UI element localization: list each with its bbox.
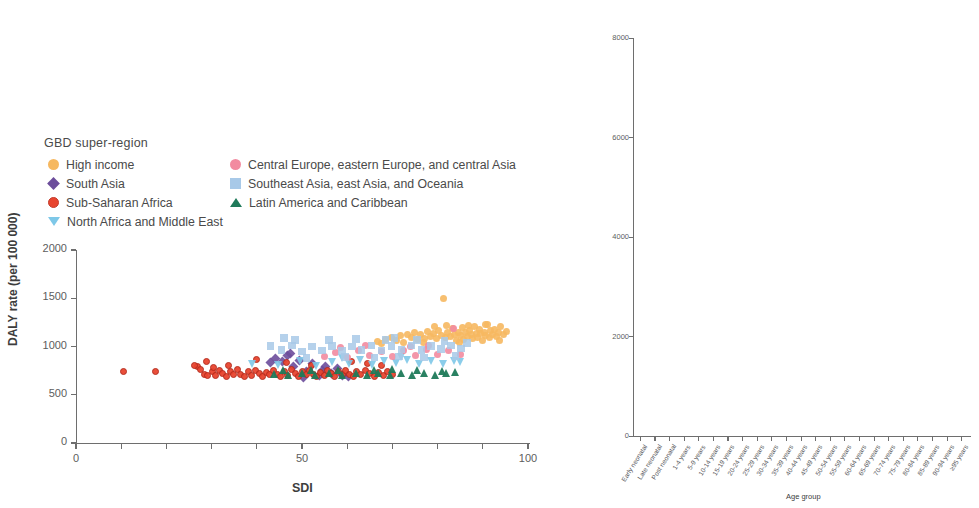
bar-x-tick <box>801 437 802 441</box>
legend-label: Central Europe, eastern Europe, and cent… <box>248 158 516 172</box>
scatter-point <box>325 336 333 344</box>
scatter-point <box>368 342 376 350</box>
bar-x-tick <box>888 437 889 441</box>
bar-y-tick-label: 2000 <box>589 332 629 341</box>
central-europe-marker-icon <box>230 159 241 170</box>
scatter-plot-area <box>76 250 528 443</box>
bar-x-tick <box>961 437 962 441</box>
scatter-x-tick <box>527 444 528 449</box>
legend-label: High income <box>66 158 134 172</box>
bar-x-tick <box>786 437 787 441</box>
legend-item-south-asia[interactable]: South Asia <box>48 174 223 193</box>
scatter-point <box>291 336 299 344</box>
legend-label: Latin America and Caribbean <box>249 196 408 210</box>
legend-item-southeast-asia[interactable]: Southeast Asia, east Asia, and Oceania <box>230 174 516 193</box>
scatter-point <box>267 342 275 350</box>
bar-x-tick <box>727 437 728 441</box>
scatter-point <box>356 356 364 364</box>
scatter-x-tick <box>166 444 167 449</box>
legend-column-left: High income South Asia Sub-Saharan Afric… <box>48 155 223 231</box>
scatter-point <box>438 367 446 375</box>
scatter-y-tick-label: 0 <box>0 435 67 447</box>
scatter-point <box>427 357 435 365</box>
scatter-point <box>270 370 278 378</box>
legend-label: South Asia <box>66 177 125 191</box>
legend-item-latin-america[interactable]: Latin America and Caribbean <box>230 193 516 212</box>
scatter-y-tick <box>71 346 76 347</box>
bar-y-tick <box>629 38 633 39</box>
bar-x-tick <box>903 437 904 441</box>
legend-item-north-africa-middle-east[interactable]: North Africa and Middle East <box>48 212 223 231</box>
scatter-x-tick <box>256 444 257 449</box>
legend-label: North Africa and Middle East <box>67 215 223 229</box>
scatter-point <box>380 357 388 365</box>
legend-item-high-income[interactable]: High income <box>48 155 223 174</box>
scatter-point <box>298 369 306 377</box>
scatter-point <box>370 366 378 374</box>
scatter-point <box>325 369 333 377</box>
south-asia-marker-icon <box>47 177 60 190</box>
bar-y-tick <box>629 237 633 238</box>
scatter-point <box>388 365 396 373</box>
scatter-y-tick <box>71 394 76 395</box>
north-africa-middle-east-marker-icon <box>48 217 60 226</box>
legend-item-central-europe[interactable]: Central Europe, eastern Europe, and cent… <box>230 155 516 174</box>
bar-x-tick <box>947 437 948 441</box>
scatter-point <box>318 347 326 355</box>
scatter-point <box>418 346 426 354</box>
scatter-point <box>440 295 447 302</box>
scatter-point <box>431 323 438 330</box>
bar-x-tick <box>771 437 772 441</box>
bar-x-tick <box>684 437 685 441</box>
southeast-asia-marker-icon <box>230 178 241 189</box>
scatter-x-tick <box>75 444 76 449</box>
scatter-point <box>191 362 198 369</box>
scatter-x-axis-line <box>76 443 530 444</box>
bar-y-tick-label: 6000 <box>589 133 629 142</box>
legend-label: Sub-Saharan Africa <box>66 196 173 210</box>
scatter-x-tick <box>482 444 483 449</box>
scatter-x-tick <box>211 444 212 449</box>
scatter-point <box>120 368 127 375</box>
scatter-point <box>397 369 405 377</box>
legend-title: GBD super-region <box>44 136 544 150</box>
scatter-x-tick <box>301 444 302 449</box>
scatter-point <box>352 335 360 343</box>
scatter-x-tick-label: 100 <box>508 452 548 464</box>
bar-x-axis-title: Age group <box>786 492 821 501</box>
scatter-point <box>352 369 360 377</box>
bar-x-tick <box>917 437 918 441</box>
scatter-x-tick-label: 50 <box>282 452 322 464</box>
scatter-point <box>203 358 210 365</box>
scatter-y-tick-label: 500 <box>0 387 67 399</box>
scatter-point <box>413 366 421 374</box>
scatter-x-axis-title: SDI <box>292 481 313 495</box>
scatter-point <box>382 336 390 344</box>
scatter-x-tick <box>121 444 122 449</box>
bar-x-tick <box>713 437 714 441</box>
scatter-y-tick <box>71 249 76 250</box>
scatter-point <box>152 368 159 375</box>
scatter-point <box>278 346 286 354</box>
scatter-point <box>503 328 510 335</box>
scatter-y-tick <box>71 298 76 299</box>
bar-y-tick-label: 0 <box>589 431 629 440</box>
scatter-point <box>248 360 256 368</box>
bar-x-tick <box>932 437 933 441</box>
scatter-point <box>437 345 445 353</box>
scatter-point <box>395 353 403 361</box>
scatter-point <box>371 354 379 362</box>
scatter-point <box>452 352 460 360</box>
scatter-point <box>348 343 356 351</box>
scatter-point <box>413 336 421 344</box>
scatter-point <box>279 366 287 374</box>
scatter-point <box>496 337 503 344</box>
scatter-point <box>427 342 435 350</box>
scatter-point <box>391 334 399 342</box>
legend-item-sub-saharan-africa[interactable]: Sub-Saharan Africa <box>48 193 223 212</box>
legend-label: Southeast Asia, east Asia, and Oceania <box>248 177 463 191</box>
bar-x-tick <box>830 437 831 441</box>
scatter-point <box>447 342 455 350</box>
bar-y-tick <box>629 137 633 138</box>
legend-column-right: Central Europe, eastern Europe, and cent… <box>230 155 516 212</box>
